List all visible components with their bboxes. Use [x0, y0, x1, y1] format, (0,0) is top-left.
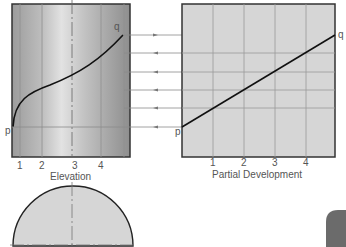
elevation-caption: Elevation	[50, 171, 91, 182]
corner-tab	[326, 210, 346, 247]
elevation-tick-1: 1	[17, 160, 23, 171]
development-tick-2: 2	[241, 157, 247, 168]
development-ticks: 1 2 3 4	[210, 157, 309, 168]
elevation-frame	[12, 4, 130, 157]
helix-development-diagram: p q 1 2 3 4 Elevation	[0, 0, 346, 247]
development-caption: Partial Development	[212, 169, 302, 180]
elevation-point-p: p	[5, 125, 11, 136]
elevation-view: p q 1 2 3 4 Elevation	[5, 0, 130, 182]
projection-arrows	[153, 34, 158, 129]
plan-semicircle	[13, 186, 133, 246]
development-view: p q 1 2 3 4 Partial Development	[175, 4, 344, 180]
development-tick-4: 4	[303, 157, 309, 168]
elevation-point-q: q	[114, 21, 120, 32]
plan-view	[10, 182, 136, 247]
development-point-q: q	[338, 29, 344, 40]
development-point-p: p	[175, 126, 181, 137]
elevation-tick-3: 3	[72, 160, 78, 171]
development-tick-1: 1	[210, 157, 216, 168]
elevation-tick-4: 4	[98, 160, 104, 171]
elevation-ticks: 1 2 3 4	[17, 160, 104, 171]
elevation-tick-2: 2	[39, 160, 45, 171]
development-tick-3: 3	[272, 157, 278, 168]
